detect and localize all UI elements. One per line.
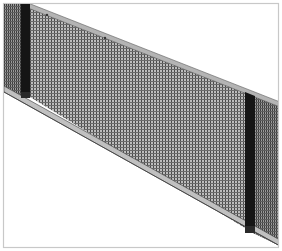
left-post-foot <box>21 92 30 98</box>
fence-drawing <box>0 0 282 251</box>
left-mesh-segment <box>4 4 21 96</box>
rail-fastener <box>46 14 48 16</box>
right-post-foot <box>245 226 255 233</box>
right-mesh-segment <box>255 96 280 246</box>
right-post <box>245 92 255 234</box>
rail-fastener <box>104 37 106 39</box>
fence-diagram <box>0 0 282 251</box>
left-post <box>21 4 30 98</box>
